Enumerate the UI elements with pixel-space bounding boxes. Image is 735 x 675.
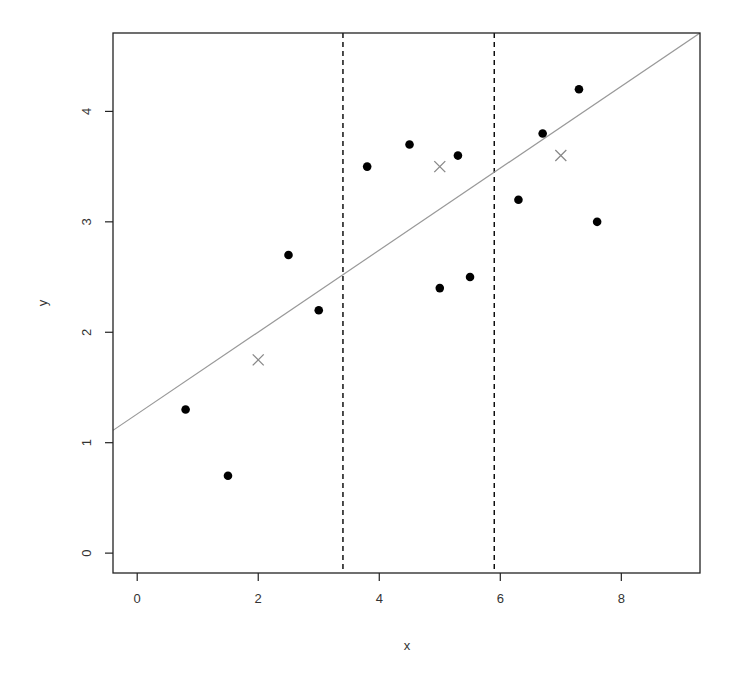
data-point [314,306,323,315]
x-axis-label: x [404,638,411,653]
x-tick-label: 6 [497,591,504,606]
mean-marker [434,161,445,172]
data-point [593,218,602,227]
mean-marker [253,354,264,365]
data-point [454,151,463,160]
data-point [466,273,475,282]
plot-marks [113,33,700,573]
data-point [538,129,547,138]
y-tick-label: 4 [79,108,94,115]
y-tick-label: 2 [79,329,94,336]
x-tick-label: 2 [255,591,262,606]
scatter-chart: 02468 01234 x y [0,0,735,675]
regression-line [113,33,700,430]
x-axis: 02468 [134,573,625,606]
data-point [405,140,414,149]
y-tick-label: 0 [79,550,94,557]
data-point [224,472,233,481]
data-point [363,162,372,171]
data-point [514,195,523,204]
data-point [575,85,584,94]
plot-frame [113,33,700,573]
data-point [284,251,293,260]
y-axis-label: y [35,299,50,306]
x-tick-label: 8 [618,591,625,606]
y-tick-label: 1 [79,439,94,446]
y-axis: 01234 [79,108,113,557]
y-tick-label: 3 [79,218,94,225]
x-tick-label: 0 [134,591,141,606]
data-point [181,405,190,414]
data-point [435,284,444,293]
x-tick-label: 4 [376,591,383,606]
mean-marker [555,150,566,161]
